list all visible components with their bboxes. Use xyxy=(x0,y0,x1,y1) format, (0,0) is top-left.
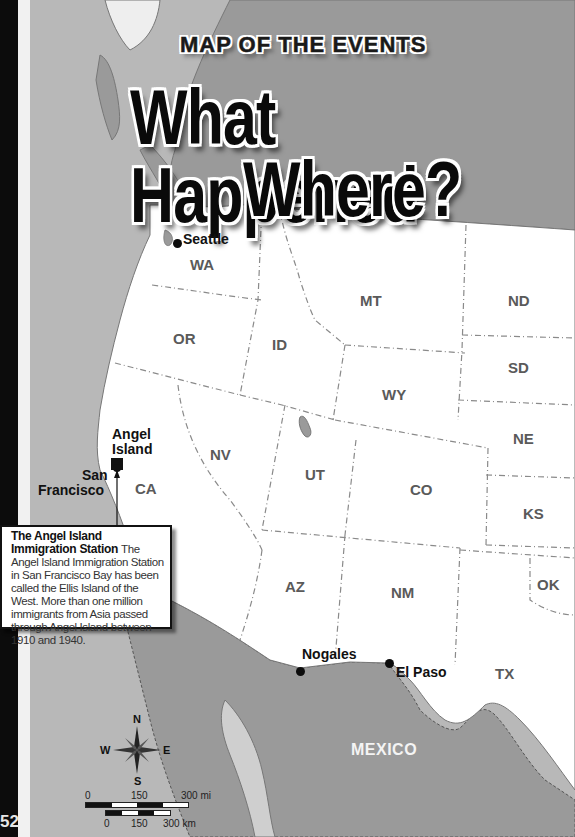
city-label-san-francisco-1: San xyxy=(82,468,108,483)
city-label-seattle: Seattle xyxy=(183,232,229,247)
state-label-ks: KS xyxy=(523,505,544,522)
city-label-angel-island-1: Angel xyxy=(112,427,151,442)
page-edge-band xyxy=(0,0,18,837)
state-label-nm: NM xyxy=(391,584,414,601)
nogales-dot xyxy=(296,667,305,676)
compass-s-label: S xyxy=(134,775,141,787)
state-label-tx: TX xyxy=(495,665,514,682)
callout-text: The Angel Island Immigration Station in … xyxy=(11,543,164,646)
state-label-az: AZ xyxy=(285,578,305,595)
state-label-ut: UT xyxy=(305,466,325,483)
scale-bar-km xyxy=(105,810,171,816)
city-label-san-francisco-2: Francisco xyxy=(38,483,104,498)
state-label-ne: NE xyxy=(513,430,534,447)
compass-n-label: N xyxy=(133,713,141,725)
scale-mi-150: 150 xyxy=(131,790,148,801)
compass-e-label: E xyxy=(163,744,170,756)
page-edge-stripe xyxy=(18,0,30,837)
state-label-nd: ND xyxy=(508,292,530,309)
page-number: 52 xyxy=(0,812,18,832)
state-label-nv: NV xyxy=(210,446,231,463)
city-label-el-paso: El Paso xyxy=(396,665,447,680)
state-label-wy: WY xyxy=(382,386,406,403)
compass-w-label: W xyxy=(100,744,110,756)
scale-km-150: 150 xyxy=(131,818,148,829)
country-label-mexico: MEXICO xyxy=(351,741,417,759)
map: MAP OF THE EVENTS What Happened Where? W… xyxy=(30,0,575,837)
state-label-mt: MT xyxy=(360,292,382,309)
coastal-islands xyxy=(105,0,160,50)
state-label-ok: OK xyxy=(537,576,560,593)
state-label-or: OR xyxy=(173,330,196,347)
scale-km-0: 0 xyxy=(104,818,110,829)
scale-bar-mi xyxy=(85,802,189,808)
angel-island-callout: The Angel Island Immigration Station The… xyxy=(0,525,172,629)
city-label-angel-island-2: Island xyxy=(112,442,152,457)
callout-title: The Angel Island Immigration Station xyxy=(11,529,121,556)
state-label-sd: SD xyxy=(508,359,529,376)
state-label-co: CO xyxy=(410,481,433,498)
scale-mi-300: 300 mi xyxy=(181,790,211,801)
vancouver-island xyxy=(96,55,120,140)
map-kicker: MAP OF THE EVENTS xyxy=(180,32,426,58)
el-paso-dot xyxy=(385,659,394,668)
city-label-nogales: Nogales xyxy=(302,647,356,662)
map-title-line2: Where? xyxy=(243,150,461,228)
scale-km-300: 300 km xyxy=(163,818,196,829)
seattle-dot xyxy=(173,239,182,248)
scale-mi-0: 0 xyxy=(85,790,91,801)
state-label-id: ID xyxy=(272,336,287,353)
state-label-wa: WA xyxy=(190,256,214,273)
state-label-ca: CA xyxy=(135,480,157,497)
